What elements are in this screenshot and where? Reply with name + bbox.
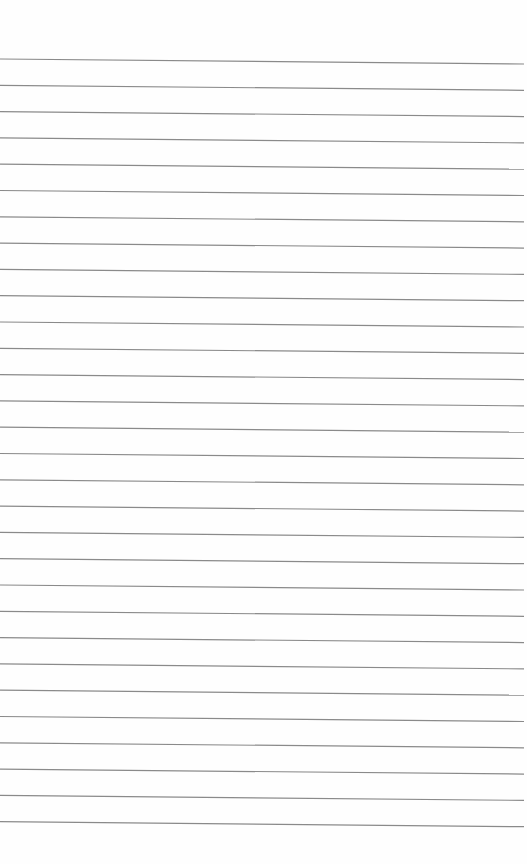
ruled-line <box>0 559 524 564</box>
ruled-line <box>0 664 524 669</box>
ruled-line <box>0 217 524 222</box>
ruled-line <box>0 454 524 459</box>
ruled-line <box>0 191 524 196</box>
ruled-lines <box>0 0 527 864</box>
ruled-line <box>0 480 524 485</box>
ruled-line <box>0 795 524 800</box>
ruled-line <box>0 690 524 695</box>
ruled-line <box>0 611 524 616</box>
ruled-line <box>0 427 524 432</box>
ruled-line <box>0 375 524 380</box>
ruled-line <box>0 717 524 722</box>
ruled-line <box>0 532 524 537</box>
ruled-line <box>0 638 524 643</box>
ruled-line <box>0 138 524 143</box>
ruled-line <box>0 322 524 327</box>
ruled-line <box>0 269 524 274</box>
ruled-line <box>0 296 524 301</box>
ruled-line <box>0 112 524 117</box>
ruled-line <box>0 348 524 353</box>
ruled-line <box>0 59 524 64</box>
ruled-line <box>0 822 524 827</box>
ruled-line <box>0 506 524 511</box>
ruled-line <box>0 769 524 774</box>
ruled-line <box>0 743 524 748</box>
ruled-line <box>0 243 524 248</box>
ruled-line <box>0 585 524 590</box>
ruled-line <box>0 401 524 406</box>
ruled-line <box>0 85 524 90</box>
lined-paper-sheet <box>0 0 527 864</box>
ruled-line <box>0 164 524 169</box>
